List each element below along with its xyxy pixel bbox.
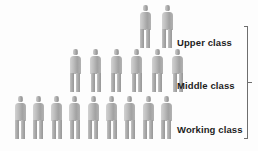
figure-body — [131, 56, 142, 74]
figure-leg-left — [33, 120, 37, 139]
figure-body — [69, 103, 80, 121]
figure-leg-right — [167, 120, 171, 139]
person-figure — [68, 96, 82, 139]
figure-body — [161, 103, 172, 121]
figure-leg-right — [39, 120, 43, 139]
figure-leg-right — [131, 120, 135, 139]
figure-leg-left — [125, 120, 129, 139]
figure-leg-left — [52, 120, 56, 139]
tier-label-upper-class: Upper class — [177, 37, 232, 48]
figure-body — [51, 103, 62, 121]
person-figure — [50, 96, 64, 139]
figure-head — [127, 96, 132, 102]
figure-head — [91, 96, 96, 102]
person-figure — [130, 49, 144, 92]
figure-leg-left — [70, 73, 74, 92]
figure-head — [155, 49, 160, 55]
figure-body — [140, 12, 151, 30]
figure-leg-left — [91, 73, 95, 92]
figure-head — [165, 5, 170, 11]
person-figure — [31, 96, 45, 139]
figure-body — [106, 103, 117, 121]
figure-leg-left — [111, 73, 115, 92]
figure-body — [15, 103, 26, 121]
figure-leg-right — [113, 120, 117, 139]
person-figure — [68, 49, 82, 92]
figure-leg-right — [168, 29, 172, 48]
figure-head — [175, 49, 180, 55]
figure-body — [124, 103, 135, 121]
figure-head — [114, 49, 119, 55]
figure-leg-left — [88, 120, 92, 139]
person-figure — [109, 49, 123, 92]
figure-leg-right — [76, 73, 80, 92]
figure-leg-left — [140, 29, 144, 48]
figure-head — [73, 49, 78, 55]
figure-body — [162, 12, 173, 30]
figure-leg-right — [97, 73, 101, 92]
tier-label-working-class: Working class — [177, 124, 243, 135]
figure-head — [72, 96, 77, 102]
figure-leg-left — [132, 73, 136, 92]
figure-leg-right — [94, 120, 98, 139]
figure-head — [164, 96, 169, 102]
figure-head — [36, 96, 41, 102]
figure-leg-left — [173, 73, 177, 92]
figure-leg-left — [152, 73, 156, 92]
person-figure — [105, 96, 119, 139]
pictogram-chart: Upper classMiddle classWorking class — [0, 0, 258, 151]
figure-body — [70, 56, 81, 74]
bracket-center-tick — [248, 82, 252, 83]
figure-body — [172, 56, 183, 74]
figure-leg-right — [146, 29, 150, 48]
figure-leg-left — [70, 120, 74, 139]
figure-head — [143, 5, 148, 11]
figure-leg-left — [143, 120, 147, 139]
figure-head — [109, 96, 114, 102]
figure-leg-left — [15, 120, 19, 139]
figure-leg-right — [76, 120, 80, 139]
figure-leg-right — [58, 120, 62, 139]
person-figure — [150, 49, 164, 92]
figure-body — [33, 103, 44, 121]
figure-body — [152, 56, 163, 74]
figure-leg-right — [158, 73, 162, 92]
person-figure — [123, 96, 137, 139]
figure-leg-right — [138, 73, 142, 92]
person-figure — [141, 96, 155, 139]
tier-label-middle-class: Middle class — [177, 80, 235, 91]
person-figure — [89, 49, 103, 92]
figure-head — [54, 96, 59, 102]
figure-head — [134, 49, 139, 55]
figure-head — [18, 96, 23, 102]
figure-body — [88, 103, 99, 121]
figure-body — [143, 103, 154, 121]
person-figure — [86, 96, 100, 139]
figure-leg-left — [161, 120, 165, 139]
person-figure — [159, 96, 173, 139]
person-figure — [138, 5, 152, 48]
figure-body — [111, 56, 122, 74]
person-figure — [13, 96, 27, 139]
figure-head — [146, 96, 151, 102]
figure-leg-right — [117, 73, 121, 92]
figure-leg-left — [162, 29, 166, 48]
figure-body — [90, 56, 101, 74]
figure-leg-left — [107, 120, 111, 139]
figure-leg-right — [21, 120, 25, 139]
person-figure — [160, 5, 174, 48]
class-range-bracket — [243, 26, 253, 139]
bracket-bottom-arm — [244, 138, 248, 139]
figure-head — [93, 49, 98, 55]
figure-leg-right — [149, 120, 153, 139]
